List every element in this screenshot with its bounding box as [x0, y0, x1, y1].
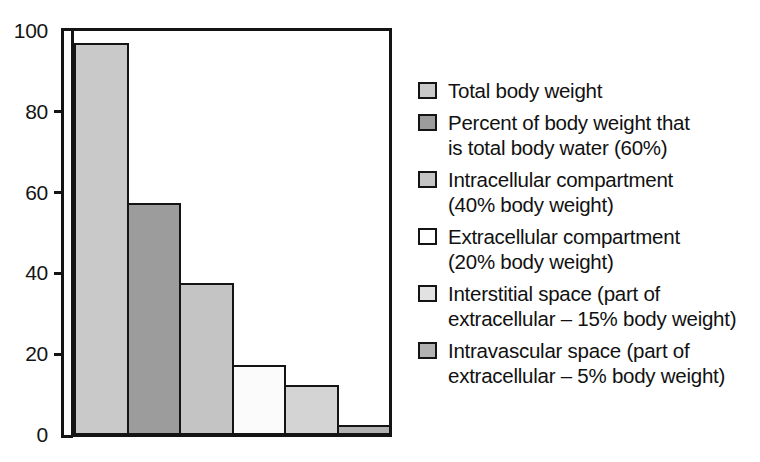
bar-chart-figure: 100806040200 Total body weightPercent of… [0, 0, 760, 462]
legend-item[interactable]: Intracellular compartment (40% body weig… [418, 167, 754, 217]
y-axis-tick-label: 60 [0, 182, 48, 203]
y-axis-tick [54, 353, 64, 356]
legend-item[interactable]: Percent of body weight that is total bod… [418, 110, 754, 160]
legend-item-label: Percent of body weight that is total bod… [448, 110, 690, 160]
bar [284, 385, 339, 435]
legend-swatch-icon [418, 228, 437, 245]
y-axis-tick [54, 191, 64, 194]
legend-item-label: Total body weight [448, 78, 602, 103]
bar [74, 43, 129, 435]
legend-swatch-icon [418, 171, 437, 188]
legend-item-label: Interstitial space (part of extracellula… [448, 281, 736, 331]
legend-item[interactable]: Total body weight [418, 78, 754, 103]
legend-item[interactable]: Extracellular compartment (20% body weig… [418, 224, 754, 274]
legend-item[interactable]: Intravascular space (part of extracellul… [418, 338, 754, 388]
legend-item-label: Intracellular compartment (40% body weig… [448, 167, 673, 217]
y-axis-tick-label: 100 [0, 20, 48, 41]
y-axis-tick [54, 110, 64, 113]
bar [179, 283, 234, 435]
chart-plot-area: 100806040200 [0, 0, 400, 462]
y-axis-tick-label: 20 [0, 343, 48, 364]
legend-item-label: Intravascular space (part of extracellul… [448, 338, 725, 388]
y-axis-line [61, 28, 64, 438]
legend-swatch-icon [418, 342, 437, 359]
legend-item[interactable]: Interstitial space (part of extracellula… [418, 281, 754, 331]
legend-item-label: Extracellular compartment (20% body weig… [448, 224, 680, 274]
legend-swatch-icon [418, 114, 437, 131]
bar [232, 365, 286, 435]
y-axis-tick-label: 80 [0, 101, 48, 122]
y-axis-tick [54, 272, 64, 275]
y-axis-tick-label: 0 [0, 424, 48, 445]
chart-legend: Total body weightPercent of body weight … [418, 78, 754, 395]
y-axis-tick-label: 40 [0, 262, 48, 283]
bar-series [74, 31, 389, 435]
legend-swatch-icon [418, 285, 437, 302]
bar [127, 203, 181, 435]
bar [337, 425, 391, 435]
legend-swatch-icon [418, 82, 437, 99]
